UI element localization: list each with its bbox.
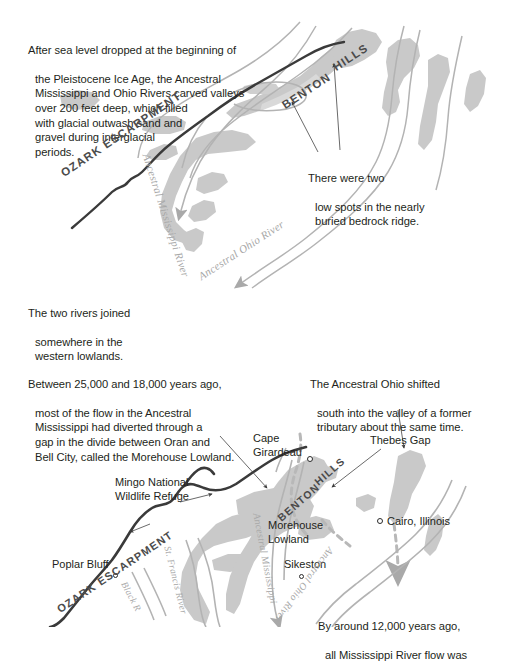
place-cape-girardeau-dot [307,456,313,462]
label-ancestral-ohio-river-top: Ancestral Ohio River [196,218,286,282]
label-st-francis-river: St. Francis River [162,545,189,615]
caption-low-spots-rest: low spots in the nearly buried bedrock r… [308,200,468,229]
label-benton-hills-benton-bottom: BENTON [275,481,322,524]
caption-12000-years-rest: all Mississippi River flow was [318,648,508,663]
bottom-map-dashed-channels [291,434,398,572]
caption-12000-years: By around 12,000 years ago, all Mississi… [318,604,508,665]
caption-two-rivers-rest: somewhere in the western lowlands. [28,335,188,364]
caption-ohio-shifted-rest: south into the valley of a former tribut… [310,406,508,435]
place-cairo-illinois-dot [377,518,383,524]
label-benton-hills-benton-top: BENTON [280,71,333,111]
caption-ohio-shifted-line1: The Ancestral Ohio shifted [310,377,508,392]
caption-low-spots: There were two low spots in the nearly b… [308,156,468,244]
label-benton-hills-hills-bottom: HILLS [312,455,347,488]
place-morehouse-lowland-label: Morehouse Lowland [268,519,323,546]
caption-sea-level-line1: After sea level dropped at the beginning… [28,43,280,58]
caption-two-rivers-line1: The two rivers joined [28,306,188,321]
label-black-river: Black R [119,580,143,613]
caption-sea-level: After sea level dropped at the beginning… [28,28,280,174]
place-mingo-refuge-label: Mingo National Wildlife Refuge [115,476,189,503]
caption-low-spots-line1: There were two [308,171,468,186]
place-thebes-gap-label: Thebes Gap [370,434,431,448]
caption-diverted-flow-rest: most of the flow in the Ancestral Missis… [28,406,278,464]
caption-diverted-flow: Between 25,000 and 18,000 years ago, mos… [28,362,278,479]
place-poplar-bluff-label: Poplar Bluff [52,558,109,572]
label-ozark-escarpment-bottom: OZARK ESCARPMENT [55,529,175,615]
caption-12000-years-line1: By around 12,000 years ago, [318,619,508,634]
caption-diverted-flow-line1: Between 25,000 and 18,000 years ago, [28,377,278,392]
place-cairo-illinois-label: Cairo, Illinois [387,515,450,529]
place-cape-girardeau-label: Cape Girardeau [253,432,302,459]
label-benton-hills-hills-top: HILLS [331,42,370,73]
